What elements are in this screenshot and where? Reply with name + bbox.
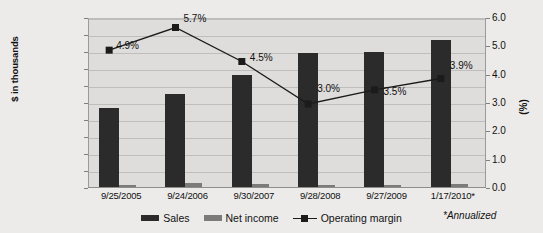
y-tick-label-right: 1.0 bbox=[492, 154, 522, 165]
legend-label-operating-margin: Operating margin bbox=[321, 212, 402, 224]
y-tick-label-right: 6.0 bbox=[492, 12, 522, 23]
legend-swatch-net-income bbox=[204, 215, 222, 221]
footnote-annualized: *Annualized bbox=[443, 210, 496, 221]
operating-margin-marker bbox=[371, 86, 378, 93]
legend-swatch-sales bbox=[141, 215, 159, 221]
operating-margin-marker bbox=[238, 58, 245, 65]
y-tick-label-right: 4.0 bbox=[492, 69, 522, 80]
operating-margin-value-label: 3.9% bbox=[450, 60, 473, 71]
y-tick-label-right: 3.0 bbox=[492, 97, 522, 108]
legend-label-net-income: Net income bbox=[226, 212, 279, 224]
legend-item-sales[interactable]: Sales bbox=[141, 212, 189, 224]
operating-margin-value-label: 3.0% bbox=[317, 83, 340, 94]
operating-margin-marker bbox=[106, 47, 113, 54]
legend-item-operating-margin[interactable]: Operating margin bbox=[293, 212, 402, 224]
x-tick-label: 1/17/2010* bbox=[413, 190, 493, 201]
operating-margin-marker bbox=[172, 24, 179, 31]
operating-margin-marker bbox=[437, 75, 444, 82]
plot-area bbox=[88, 18, 486, 188]
legend-swatch-operating-margin bbox=[293, 214, 317, 222]
y-tick-label-right: 0.0 bbox=[492, 182, 522, 193]
legend-item-net-income[interactable]: Net income bbox=[204, 212, 279, 224]
y-tick-label-right: 5.0 bbox=[492, 40, 522, 51]
y-tick-mark-left bbox=[84, 188, 88, 189]
operating-margin-value-label: 5.7% bbox=[184, 13, 207, 24]
operating-margin-line bbox=[89, 19, 487, 189]
operating-margin-value-label: 4.5% bbox=[250, 52, 273, 63]
operating-margin-value-label: 3.5% bbox=[384, 86, 407, 97]
operating-margin-chart: $ in thousands (%) 01,000,0002,000,0003,… bbox=[0, 0, 543, 233]
y-axis-title-left: $ in thousands bbox=[9, 9, 23, 129]
y-tick-label-right: 2.0 bbox=[492, 125, 522, 136]
operating-margin-marker bbox=[305, 101, 312, 108]
operating-margin-value-label: 4.9% bbox=[116, 40, 139, 51]
legend-label-sales: Sales bbox=[163, 212, 189, 224]
